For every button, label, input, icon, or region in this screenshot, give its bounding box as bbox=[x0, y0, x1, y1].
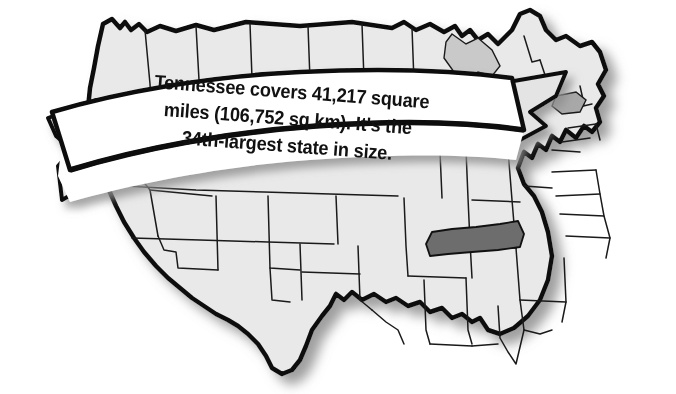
ribbon-banner bbox=[0, 0, 676, 394]
illustration-canvas: Tennessee covers 41,217 square miles (10… bbox=[0, 0, 676, 394]
map-artboard: Tennessee covers 41,217 square miles (10… bbox=[0, 0, 676, 394]
